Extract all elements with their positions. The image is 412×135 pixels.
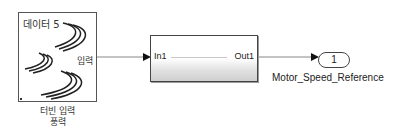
caption-line-1: 터빈 입력: [18, 106, 97, 117]
wind-data-source-block[interactable]: 데이터 5 입력: [18, 12, 97, 102]
outport-block[interactable]: 1: [318, 52, 350, 68]
subsystem-input-port-label: In1: [154, 51, 167, 61]
outport-number: 1: [331, 54, 337, 65]
source-output-port-label: 입력: [77, 54, 93, 67]
block-corner-marker: [20, 98, 22, 100]
subsystem-block[interactable]: In1 Out1: [150, 35, 258, 82]
model-canvas[interactable]: 데이터 5 입력 터빈 입력 풍력 In1: [0, 0, 412, 135]
source-block-caption: 터빈 입력 풍력: [18, 106, 97, 128]
subsystem-output-port-label: Out1: [234, 51, 254, 61]
subsystem-passthrough-line: [171, 57, 227, 58]
caption-line-2: 풍력: [18, 117, 97, 128]
outport-name-label: Motor_Speed_Reference: [272, 72, 384, 83]
